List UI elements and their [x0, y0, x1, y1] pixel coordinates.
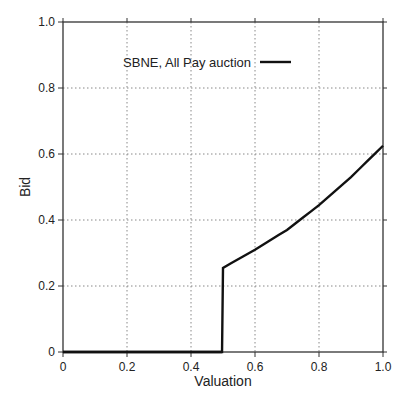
y-tick-label: 0.6: [38, 147, 55, 161]
series-line: [63, 146, 383, 352]
y-tick-label: 0: [48, 345, 55, 359]
chart: 00.20.40.60.81.0 00.20.40.60.81.0 SBNE, …: [0, 0, 409, 406]
y-tick-label: 0.8: [38, 81, 55, 95]
x-tick-label: 0.2: [119, 360, 136, 374]
y-axis-label: Bid: [17, 177, 33, 197]
legend: SBNE, All Pay auction: [123, 55, 291, 70]
x-tick-label: 1.0: [375, 360, 392, 374]
x-tick-label: 0: [60, 360, 67, 374]
y-tick-labels: 00.20.40.60.81.0: [38, 15, 55, 359]
y-tick-label: 0.4: [38, 213, 55, 227]
x-tick-label: 0.6: [247, 360, 264, 374]
x-tick-label: 0.8: [311, 360, 328, 374]
x-tick-labels: 00.20.40.60.81.0: [60, 360, 392, 374]
legend-label: SBNE, All Pay auction: [123, 55, 251, 70]
y-tick-label: 1.0: [38, 15, 55, 29]
x-axis-label: Valuation: [194, 373, 251, 389]
y-tick-label: 0.2: [38, 279, 55, 293]
x-tick-label: 0.4: [183, 360, 200, 374]
